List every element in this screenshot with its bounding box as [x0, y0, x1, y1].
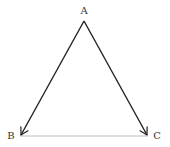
- edge-a-to-b-arrow: [21, 21, 84, 135]
- node-label-a: A: [80, 6, 87, 16]
- node-label-c: C: [153, 131, 161, 141]
- edge-a-to-c-arrow: [84, 21, 147, 135]
- triangle-graph: [0, 0, 170, 147]
- node-label-b: B: [7, 131, 14, 141]
